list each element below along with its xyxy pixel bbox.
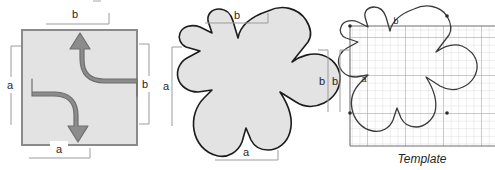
- template-dimension-left-b: b: [332, 50, 349, 112]
- tile-dimension-top-b-label: b: [234, 9, 240, 21]
- template-anchor-top-left: [348, 24, 352, 28]
- dimension-right-b-label: b: [142, 78, 148, 90]
- tile-dimension-left-a: a: [163, 47, 182, 126]
- dimension-bottom-a-label: a: [56, 143, 63, 155]
- template-dimension-left-b-label: b: [332, 75, 338, 87]
- template-tile-label-b: b: [393, 16, 398, 26]
- template-grid: [350, 26, 495, 146]
- template-anchor-bottom-right: [445, 111, 449, 115]
- template-grid-major: [350, 26, 495, 146]
- template-panel: b a b Template: [330, 0, 495, 170]
- figure-canvas: b a b a: [0, 0, 495, 170]
- tile-dimension-left-a-label: a: [163, 80, 170, 92]
- tile-panel: b a b a: [160, 0, 345, 170]
- template-caption: Template: [398, 152, 447, 166]
- square-panel: b a b a: [0, 0, 165, 170]
- dimension-left-a-label: a: [7, 79, 14, 91]
- dimension-top-b: b: [46, 6, 109, 24]
- template-tile-label-a: a: [361, 74, 366, 84]
- tile-shape: [177, 8, 340, 157]
- dimension-left-a: a: [3, 46, 22, 125]
- dimension-right-b: b: [138, 44, 153, 124]
- template-anchor-top-right: [445, 14, 449, 18]
- tile-dimension-right-b-label: b: [319, 75, 325, 87]
- template-anchor-bottom-left: [348, 111, 352, 115]
- dimension-top-b-label: b: [72, 8, 78, 20]
- tile-dimension-bottom-a-label: a: [243, 146, 250, 158]
